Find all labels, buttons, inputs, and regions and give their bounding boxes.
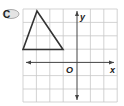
coordinate-graph: y x O xyxy=(0,0,124,106)
x-axis-arrow-left-icon xyxy=(26,60,31,64)
grid-lines xyxy=(23,9,117,102)
y-axis-arrow-up-icon xyxy=(75,11,79,16)
x-axis-arrow-right-icon xyxy=(109,60,114,64)
graph-svg: y x O xyxy=(0,0,124,106)
x-axis-label: x xyxy=(109,65,116,75)
triangle-shape xyxy=(23,11,63,50)
y-axis-label: y xyxy=(79,12,86,22)
y-axis-arrow-down-icon xyxy=(75,95,79,100)
origin-label: O xyxy=(66,65,73,75)
